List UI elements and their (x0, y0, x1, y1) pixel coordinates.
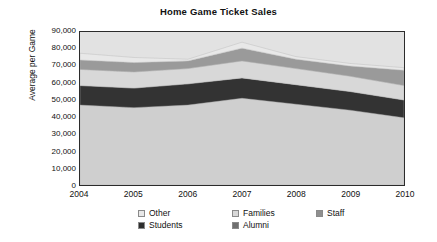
y-tick-label: 20,000 (28, 148, 76, 156)
y-tick-label: 10,000 (28, 165, 76, 173)
legend-swatch-alumni (232, 222, 239, 229)
x-tick-label: 2006 (178, 189, 197, 199)
legend-swatch-other (138, 210, 145, 217)
legend-item-students[interactable]: Students (138, 221, 183, 230)
y-axis-tick-labels: 010,00020,00030,00040,00050,00060,00070,… (24, 31, 76, 186)
legend-label: Families (243, 209, 275, 218)
y-tick-label: 40,000 (28, 113, 76, 121)
x-tick-label: 2008 (287, 189, 306, 199)
area-series-students (80, 98, 404, 185)
legend-swatch-students (138, 222, 145, 229)
legend-swatch-families (232, 210, 239, 217)
y-tick-label: 30,000 (28, 130, 76, 138)
chart-container: Home Game Ticket Sales Average per Game … (0, 0, 437, 242)
x-tick-label: 2010 (396, 189, 415, 199)
legend-swatch-staff (316, 210, 323, 217)
legend-item-other[interactable]: Other (138, 209, 170, 218)
y-tick-label: 60,000 (28, 79, 76, 87)
x-tick-label: 2004 (70, 189, 89, 199)
y-tick-label: 70,000 (28, 61, 76, 69)
y-tick-label: 50,000 (28, 96, 76, 104)
legend-item-families[interactable]: Families (232, 209, 275, 218)
chart-legend: OtherFamiliesStaffStudentsAlumni (120, 209, 370, 239)
legend-label: Staff (327, 209, 344, 218)
legend-label: Other (149, 209, 170, 218)
legend-label: Students (149, 221, 183, 230)
x-axis-tick-labels: 2004200520062007200820092010 (79, 189, 405, 203)
x-tick-label: 2007 (233, 189, 252, 199)
x-tick-label: 2009 (341, 189, 360, 199)
plot-area (79, 31, 405, 186)
legend-item-alumni[interactable]: Alumni (232, 221, 269, 230)
stacked-area-svg (80, 32, 404, 185)
y-tick-label: 90,000 (28, 27, 76, 35)
y-tick-label: 80,000 (28, 44, 76, 52)
chart-title: Home Game Ticket Sales (0, 6, 437, 17)
x-tick-label: 2005 (124, 189, 143, 199)
legend-label: Alumni (243, 221, 269, 230)
legend-item-staff[interactable]: Staff (316, 209, 344, 218)
